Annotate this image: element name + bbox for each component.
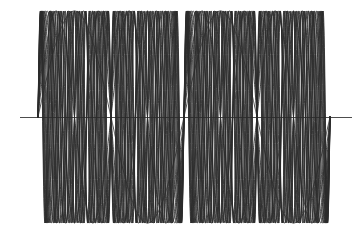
sine-harmonics-plot — [0, 0, 358, 236]
chart-figure — [0, 0, 358, 236]
